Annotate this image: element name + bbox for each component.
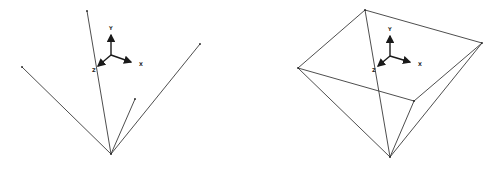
- vertex: [413, 100, 415, 102]
- vertex: [481, 42, 483, 44]
- y-axis-label: Y: [387, 26, 392, 32]
- axis-triad-icon: Y X Z: [92, 25, 143, 73]
- x-axis-label: X: [139, 61, 143, 67]
- edge: [111, 44, 200, 154]
- edge: [111, 99, 135, 154]
- edge: [365, 10, 390, 157]
- vertex: [199, 43, 201, 45]
- vertex: [364, 9, 366, 11]
- right-figure: Y X Z: [297, 9, 483, 158]
- axis-triad-icon: Y X Z: [372, 26, 422, 73]
- edge: [87, 11, 111, 154]
- z-axis-label: Z: [372, 67, 376, 73]
- y-axis-label: Y: [108, 25, 113, 31]
- left-figure: Y X Z: [21, 10, 201, 155]
- x-axis-label: X: [418, 61, 422, 67]
- x-axis: [390, 56, 410, 62]
- diagram-canvas: Y X Z Y X Z: [0, 0, 497, 171]
- edge: [22, 67, 111, 154]
- apex-vertex: [110, 153, 112, 155]
- vertex: [86, 10, 88, 12]
- vertex: [297, 67, 299, 69]
- vertex: [134, 98, 136, 100]
- vertex: [21, 66, 23, 68]
- apex-vertex: [389, 156, 391, 158]
- z-axis: [378, 56, 390, 66]
- z-axis-label: Z: [92, 67, 96, 73]
- x-axis: [111, 55, 131, 62]
- z-axis: [98, 55, 111, 66]
- edge: [390, 101, 414, 157]
